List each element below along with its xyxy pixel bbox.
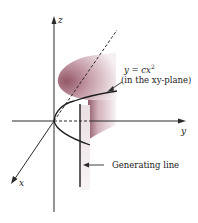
curve-equation: y = cx2 — [123, 63, 155, 75]
y-axis-label: y — [180, 126, 187, 136]
curve-note: (in the xy-plane) — [121, 75, 191, 85]
x-axis-label: x — [19, 178, 24, 188]
curve-equation-text: y = cx — [123, 65, 151, 75]
generating-line-label: Generating line — [112, 160, 179, 170]
z-axis-label: z — [57, 15, 63, 25]
curve-equation-exponent: 2 — [151, 63, 155, 70]
parabolic-cylinder-diagram: z y x y = cx2 (in the xy-plane) Generati… — [0, 0, 198, 223]
